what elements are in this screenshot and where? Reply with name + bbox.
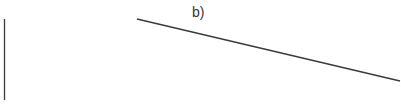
diagonal-line	[137, 19, 400, 81]
diagram-label: b)	[192, 5, 204, 19]
